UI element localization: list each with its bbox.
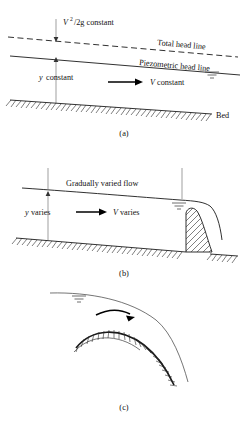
total-head-line-label: Total head line: [157, 38, 206, 51]
velocity-head-symbol: V: [63, 18, 69, 27]
caption-c: (c): [119, 403, 129, 412]
piezometric-head-line-label: Piezometric head line: [139, 58, 211, 73]
bed-hatching-a: [6, 100, 211, 121]
weir-obstruction: [180, 199, 248, 257]
flow-type-label-b: Gradually varied flow: [66, 179, 138, 188]
depth-label-a: constant: [46, 73, 74, 82]
velocity-arrow-a: [108, 79, 143, 86]
velocity-arrow-b: [76, 209, 107, 216]
caption-b: (b): [119, 269, 129, 278]
bed-line-b: [16, 238, 186, 252]
panel-b: Gradually varied flow y varies V varies …: [12, 168, 248, 278]
velocity-label-a: constant: [157, 78, 185, 87]
flow-arrow-c: [96, 310, 135, 321]
bed-hatching-b: [12, 238, 237, 263]
velocity-symbol-b: V: [113, 208, 119, 217]
water-surface-symbol-c: [72, 296, 86, 302]
figure-container: V 2 /2g constant Total head line Piezome…: [0, 0, 248, 424]
panel-a-labels: V 2 /2g constant Total head line Piezome…: [38, 16, 229, 120]
depth-symbol-b: y: [24, 208, 29, 217]
crest-hatching-c: [76, 330, 177, 386]
velocity-head-marker: [54, 19, 59, 42]
velocity-head-exponent: 2: [70, 16, 73, 22]
depth-symbol-a: y: [38, 73, 43, 82]
water-surface-symbol-b: [172, 203, 186, 209]
bed-line-b-right: [210, 254, 238, 256]
velocity-symbol-a: V: [150, 78, 156, 87]
caption-a: (a): [119, 129, 129, 138]
bed-label-a: Bed: [216, 111, 229, 120]
velocity-label-b: varies: [120, 208, 140, 217]
depth-label-b: varies: [31, 208, 51, 217]
velocity-head-label: /2g constant: [74, 18, 115, 27]
panel-c: (c): [50, 293, 188, 412]
panel-a: V 2 /2g constant Total head line Piezome…: [6, 16, 240, 138]
